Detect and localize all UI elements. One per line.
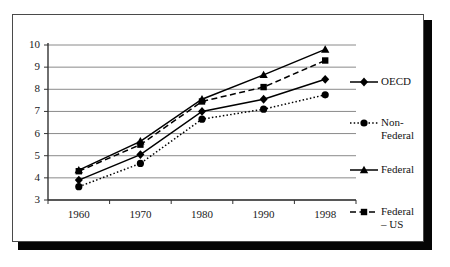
legend-symbol-diamond-icon xyxy=(349,75,379,89)
legend-symbol-circle-icon xyxy=(349,116,379,130)
data-point-marker xyxy=(260,84,266,90)
chart-figure-frame: 345678910 19601970198019901998 OECDNon- … xyxy=(12,14,424,242)
data-point-marker xyxy=(199,98,205,104)
legend-label: OECD xyxy=(379,75,411,88)
y-tick-label: 9 xyxy=(18,61,40,72)
data-point-marker xyxy=(321,75,329,84)
legend-symbol-square-icon xyxy=(349,205,379,219)
x-tick-label: 1990 xyxy=(239,209,289,220)
legend-label: Federal xyxy=(379,163,414,176)
data-point-marker xyxy=(322,91,329,98)
legend-label: Federal – US xyxy=(379,205,414,230)
data-point-marker xyxy=(321,45,329,52)
series-line-oecd xyxy=(79,79,325,180)
data-point-marker xyxy=(75,183,82,190)
data-point-marker xyxy=(137,160,144,167)
data-point-marker xyxy=(260,95,268,104)
y-tick-label: 3 xyxy=(18,194,40,205)
legend-symbol-triangle-icon xyxy=(349,163,379,177)
data-point-marker xyxy=(76,168,82,174)
screenshot-root: 345678910 19601970198019901998 OECDNon- … xyxy=(0,0,450,267)
data-point-marker xyxy=(136,150,144,159)
legend-item-oecd[interactable]: OECD xyxy=(349,75,411,89)
legend-item-federal[interactable]: Federal xyxy=(349,163,414,177)
data-point-marker xyxy=(137,141,143,147)
y-tick-label: 8 xyxy=(18,83,40,94)
x-tick-label: 1980 xyxy=(177,209,227,220)
chart-plot-area: 345678910 19601970198019901998 OECDNon- … xyxy=(13,15,423,241)
y-tick-label: 10 xyxy=(18,39,40,50)
x-tick-label: 1960 xyxy=(54,209,104,220)
data-point-marker xyxy=(198,107,206,116)
legend-item-non-federal[interactable]: Non- Federal xyxy=(349,116,414,141)
y-tick-label: 7 xyxy=(18,105,40,116)
y-tick-label: 4 xyxy=(18,172,40,183)
data-point-marker xyxy=(322,57,328,63)
legend-label: Non- Federal xyxy=(379,116,414,141)
y-tick-label: 6 xyxy=(18,128,40,139)
x-tick-label: 1970 xyxy=(115,209,165,220)
y-tick-label: 5 xyxy=(18,150,40,161)
legend-item-federal-us[interactable]: Federal – US xyxy=(349,205,414,230)
data-point-marker xyxy=(198,116,205,123)
x-tick-label: 1998 xyxy=(300,209,350,220)
data-point-marker xyxy=(260,106,267,113)
